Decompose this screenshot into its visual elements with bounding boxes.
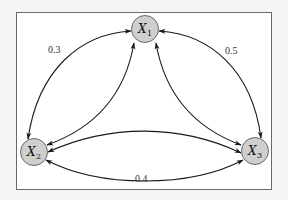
node-x2: X2 (21, 139, 48, 166)
edge-x1-x2-outer (28, 31, 131, 139)
edge-x2-x3-inner (48, 131, 241, 153)
edge-x1-x3-outer (159, 31, 261, 138)
edge-x1-x3-inner (156, 43, 241, 145)
edge-label-x1-x3: 0.5 (225, 45, 238, 56)
node-x1: X1 (132, 16, 159, 43)
edge-x1-x2-inner (47, 43, 134, 145)
edge-label-x1-x2: 0.3 (48, 44, 61, 55)
markov-graph-diagram: 0.3 0.5 0.4 X1 X2 X3 (0, 0, 288, 200)
node-x3: X3 (242, 138, 269, 165)
edge-label-x2-x3: 0.4 (135, 173, 148, 184)
